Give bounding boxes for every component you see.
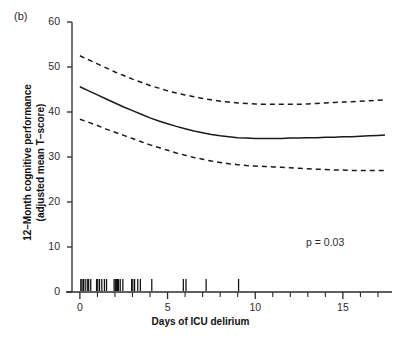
x-tick-label: 10 bbox=[244, 301, 266, 313]
x-tick-label: 0 bbox=[69, 301, 91, 313]
axes-group bbox=[66, 22, 392, 299]
y-tick-label: 50 bbox=[38, 60, 60, 72]
series-line-2 bbox=[80, 119, 385, 170]
y-tick-label: 40 bbox=[38, 105, 60, 117]
x-tick-label: 5 bbox=[157, 301, 179, 313]
x-tick-label: 15 bbox=[332, 301, 354, 313]
series-line-1 bbox=[80, 87, 385, 139]
y-tick-label: 60 bbox=[38, 15, 60, 27]
y-tick-label: 20 bbox=[38, 195, 60, 207]
y-tick-label: 30 bbox=[38, 150, 60, 162]
data-series-group bbox=[80, 56, 385, 171]
series-line-0 bbox=[80, 56, 385, 105]
rug-marks-group bbox=[81, 279, 239, 291]
y-tick-label: 0 bbox=[38, 285, 60, 297]
y-tick-label: 10 bbox=[38, 240, 60, 252]
plot-area bbox=[0, 0, 401, 339]
figure-panel-b: (b) 12–Month cognitive performance (adju… bbox=[0, 0, 401, 339]
